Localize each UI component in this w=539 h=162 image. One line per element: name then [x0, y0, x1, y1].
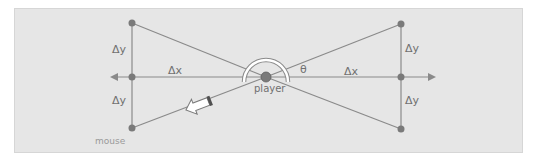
- point-top-left: [129, 20, 136, 27]
- point-top-right: [398, 21, 405, 28]
- label-delta-x-left: Δx: [168, 64, 183, 77]
- label-mouse: mouse: [95, 136, 126, 146]
- projectile-arrow-icon: [183, 93, 214, 118]
- point-mid-right: [398, 74, 405, 81]
- label-player: player: [254, 83, 286, 94]
- label-delta-y-top-left: Δy: [112, 43, 127, 56]
- label-delta-y-bottom-left: Δy: [112, 94, 127, 107]
- diagonal-bottom-right: [266, 77, 401, 129]
- point-mid-left: [129, 74, 136, 81]
- point-mouse: [129, 125, 136, 132]
- label-theta: θ: [300, 63, 307, 76]
- player-dot: [261, 72, 271, 82]
- label-delta-y-top-right: Δy: [405, 42, 420, 55]
- label-delta-y-bottom-right: Δy: [405, 94, 420, 107]
- label-delta-x-right: Δx: [344, 65, 359, 78]
- point-bottom-right: [398, 126, 405, 133]
- angle-diagram: Δy Δy Δx θ Δx Δy Δy player mouse: [0, 0, 539, 162]
